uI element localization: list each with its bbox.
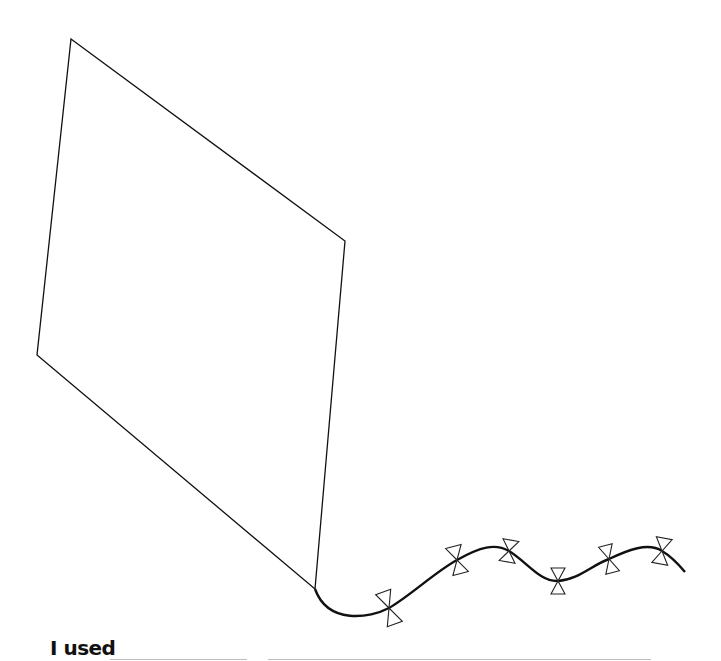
bow-icon xyxy=(376,589,403,626)
kite-tail xyxy=(315,547,685,616)
kite-outline xyxy=(37,39,345,589)
bow-icon xyxy=(446,544,469,575)
answer-blank-2[interactable] xyxy=(268,659,651,660)
bow-icon xyxy=(652,537,672,565)
answer-blank-1[interactable] xyxy=(110,659,247,660)
bow-icon xyxy=(599,544,620,575)
prompt-label: I used xyxy=(50,637,115,659)
bow-icon xyxy=(499,539,519,563)
kite-drawing xyxy=(0,0,721,661)
